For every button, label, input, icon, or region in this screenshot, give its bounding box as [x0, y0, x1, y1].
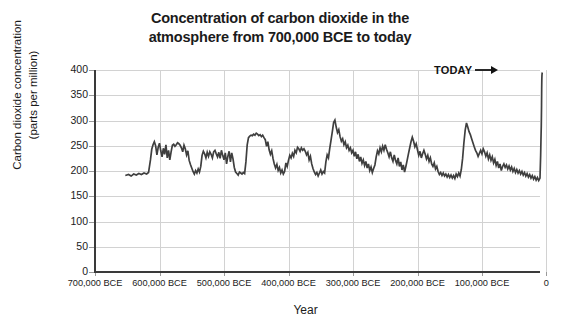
today-label: TODAY — [434, 64, 472, 76]
x-tick-mark — [546, 272, 547, 276]
y-axis-title-line-1: Carbon dioxide concentration — [10, 0, 26, 205]
x-tick-label: 700,000 BCE — [68, 278, 123, 288]
plot-area — [95, 70, 540, 272]
x-tick-label: 0 — [544, 278, 549, 288]
gridline-vertical — [546, 70, 547, 272]
right-arrow-icon — [475, 65, 499, 75]
x-tick-label: 500,000 BCE — [197, 278, 252, 288]
y-tick-label: 150 — [60, 189, 88, 201]
today-annotation: TODAY — [434, 64, 499, 76]
y-tick-label: 200 — [60, 164, 88, 176]
data-series-svg — [95, 70, 540, 272]
chart-title: Concentration of carbon dioxide in the a… — [95, 9, 465, 48]
chart-title-line-2: atmosphere from 700,000 BCE to today — [95, 28, 465, 47]
y-tick-label: 50 — [60, 240, 88, 252]
y-axis-title-line-2: (parts per million) — [26, 0, 42, 205]
x-tick-label: 400,000 BCE — [261, 278, 316, 288]
chart-title-line-1: Concentration of carbon dioxide in the — [95, 9, 465, 28]
y-tick-label: 400 — [60, 63, 88, 75]
y-tick-label: 250 — [60, 139, 88, 151]
x-tick-label: 100,000 BCE — [455, 278, 510, 288]
y-tick-label: 0 — [60, 265, 88, 277]
y-axis-title: Carbon dioxide concentration (parts per … — [10, 0, 44, 205]
y-tick-label: 100 — [60, 215, 88, 227]
y-tick-label: 350 — [60, 88, 88, 100]
co2-concentration-line — [125, 73, 542, 181]
co2-chart-figure: Concentration of carbon dioxide in the a… — [0, 0, 565, 336]
x-tick-label: 600,000 BCE — [132, 278, 187, 288]
x-tick-label: 200,000 BCE — [390, 278, 445, 288]
x-tick-label: 300,000 BCE — [326, 278, 381, 288]
x-axis-title: Year — [95, 303, 516, 317]
y-tick-label: 300 — [60, 114, 88, 126]
